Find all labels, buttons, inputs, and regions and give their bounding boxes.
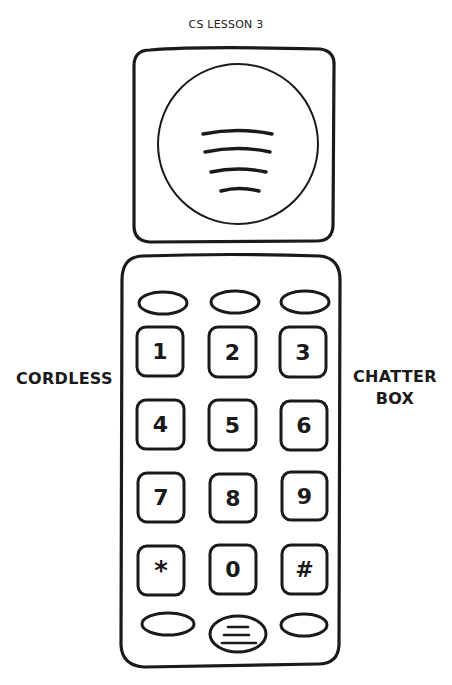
- speaker-housing: [134, 48, 334, 242]
- top-center-soft-button[interactable]: [211, 291, 259, 313]
- top-right-soft-button[interactable]: [281, 291, 329, 313]
- key-hash[interactable]: #: [282, 545, 327, 594]
- key-6[interactable]: 6: [281, 401, 327, 450]
- key-8[interactable]: 8: [210, 474, 256, 522]
- key-5[interactable]: 5: [209, 400, 256, 450]
- speaker-grille-icon: [203, 131, 272, 192]
- key-4[interactable]: 4: [137, 400, 184, 449]
- key-9[interactable]: 9: [282, 472, 327, 520]
- menu-button[interactable]: [210, 616, 266, 652]
- key-star[interactable]: *: [138, 546, 184, 595]
- keypad-body: [121, 255, 340, 668]
- key-7[interactable]: 7: [138, 473, 184, 522]
- key-1[interactable]: 1: [137, 327, 183, 376]
- bottom-left-soft-button[interactable]: [142, 613, 194, 635]
- key-0[interactable]: 0: [210, 545, 256, 594]
- bottom-right-soft-button[interactable]: [281, 614, 327, 636]
- key-2[interactable]: 2: [209, 327, 256, 377]
- top-left-soft-button[interactable]: [139, 292, 187, 314]
- key-3[interactable]: 3: [280, 327, 326, 377]
